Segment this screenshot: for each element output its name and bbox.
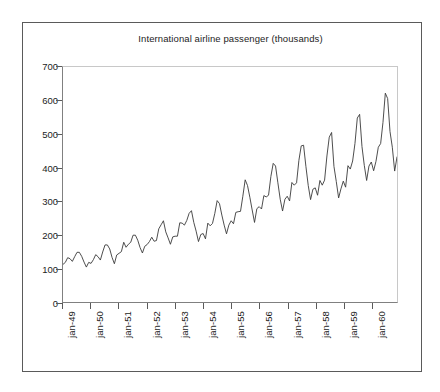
x-tick-label: jan-59 [348,311,359,338]
x-tick-label: jan-52 [151,311,162,338]
y-tick-mark [56,66,62,67]
y-tick-mark [56,269,62,270]
x-axis-labels: jan-49jan-50jan-51jan-52jan-53jan-54jan-… [0,311,440,371]
x-tick-label: jan-58 [320,311,331,338]
x-tick-mark [344,303,345,309]
x-tick-mark [316,303,317,309]
x-tick-mark [259,303,260,309]
x-tick-label: jan-49 [66,311,77,338]
x-tick-mark [147,303,148,309]
x-tick-mark [62,303,63,309]
x-tick-label: jan-51 [122,311,133,338]
y-tick-label: 400 [24,162,58,173]
y-tick-mark [56,235,62,236]
x-tick-mark [288,303,289,309]
series-line-airline-passengers [63,93,397,267]
x-tick-mark [118,303,119,309]
y-tick-mark [56,100,62,101]
bottom-caption-fragment [6,380,246,391]
x-tick-label: jan-55 [235,311,246,338]
y-tick-mark [56,134,62,135]
x-tick-label: jan-56 [263,311,274,338]
figure-container: International airline passenger (thousan… [0,0,440,392]
y-tick-label: 500 [24,128,58,139]
y-tick-label: 200 [24,230,58,241]
y-tick-mark [56,201,62,202]
x-tick-label: jan-53 [179,311,190,338]
x-tick-label: jan-60 [376,311,387,338]
x-tick-label: jan-54 [207,311,218,338]
plot-area [62,66,398,303]
x-tick-mark [372,303,373,309]
y-tick-mark [56,168,62,169]
y-tick-label: 100 [24,264,58,275]
x-tick-mark [90,303,91,309]
chart-title: International airline passenger (thousan… [62,33,399,44]
x-tick-mark [175,303,176,309]
x-tick-mark [203,303,204,309]
y-tick-label: 300 [24,196,58,207]
y-tick-label: 600 [24,94,58,105]
x-tick-mark [231,303,232,309]
y-tick-label: 700 [24,61,58,72]
line-chart-svg [63,67,397,302]
x-tick-label: jan-50 [94,311,105,338]
x-tick-label: jan-57 [292,311,303,338]
x-axis-ticks [0,303,440,310]
